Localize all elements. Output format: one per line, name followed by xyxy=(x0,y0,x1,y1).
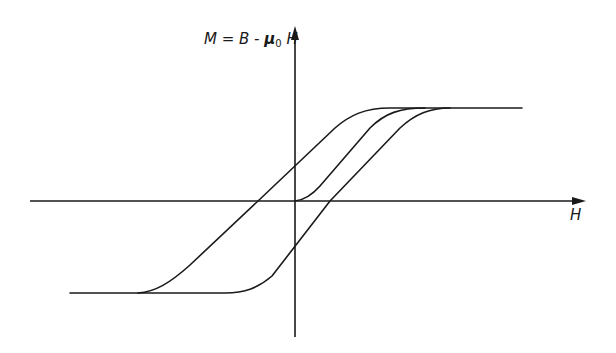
h-axis-arrow-icon xyxy=(572,197,586,205)
h-axis-label: H xyxy=(570,206,581,224)
hysteresis-diagram: M = B - μ0 H H xyxy=(0,0,616,353)
virgin-curve xyxy=(295,108,425,201)
m-axis-label: M = B - μ0 H xyxy=(204,30,298,49)
